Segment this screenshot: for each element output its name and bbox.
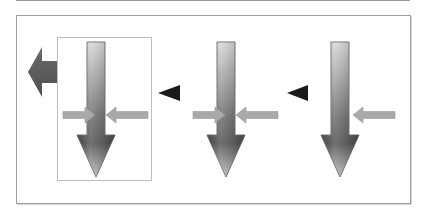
down-arrow-icon (321, 42, 359, 177)
inward-left-arrow-icon (353, 107, 395, 123)
down-arrow-icon (207, 42, 245, 177)
inward-left-arrow-icon (106, 107, 148, 123)
inward-left-arrow-icon (236, 107, 278, 123)
pointer-triangle-icon (287, 85, 308, 101)
stage-2 (193, 42, 278, 177)
flow-diagram (0, 0, 425, 214)
output-left-arrow-icon (28, 47, 57, 97)
pointer-triangle-icon (158, 85, 180, 101)
stage-3 (321, 42, 395, 177)
down-arrow-icon (77, 42, 115, 177)
stage-1 (28, 42, 148, 177)
